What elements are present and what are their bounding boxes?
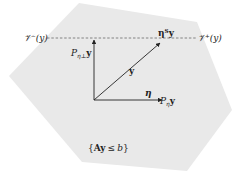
region-close: } [123, 143, 129, 153]
p-perp-y: y [85, 48, 92, 58]
polyhedron-diagram: 𝒱⁻(y) 𝒱⁺(y) ηᵀy Pη⊥y y η Pηy {Ay≤b} [0, 0, 237, 177]
region-label: {Ay≤b} [88, 143, 129, 153]
eta-label: η [145, 88, 152, 98]
eta-t-y-label: ηᵀy [158, 28, 175, 38]
p-perp-sub: η⊥ [77, 52, 86, 60]
p-eta-y: y [169, 96, 176, 106]
region-leq: ≤ [108, 143, 116, 153]
v-minus-label: 𝒱⁻(y) [24, 33, 48, 43]
eta-t-y-text: ηᵀy [158, 28, 175, 38]
v-plus-label: 𝒱⁺(y) [198, 33, 222, 43]
y-label: y [128, 66, 135, 76]
region-y: y [99, 143, 106, 153]
